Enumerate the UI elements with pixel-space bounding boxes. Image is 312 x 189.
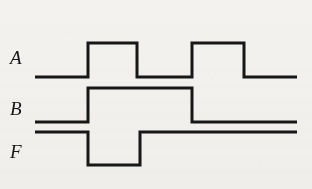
waveform-a bbox=[35, 43, 297, 77]
waveform-canvas bbox=[0, 0, 312, 189]
timing-diagram-figure: A B F bbox=[0, 0, 312, 189]
signal-label-f: F bbox=[10, 142, 22, 161]
waveform-b bbox=[35, 88, 297, 122]
waveform-f bbox=[35, 132, 297, 165]
signal-label-b: B bbox=[10, 99, 22, 118]
signal-label-a: A bbox=[10, 48, 22, 67]
